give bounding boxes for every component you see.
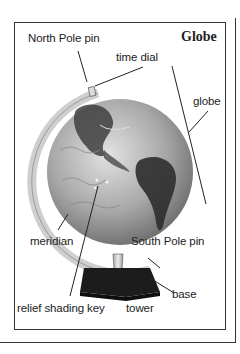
- label-globe: globe: [193, 95, 221, 107]
- label-south-pole-pin: South Pole pin: [131, 235, 204, 247]
- base: [80, 268, 160, 297]
- globe-sphere: [47, 99, 193, 245]
- north-pole-pin: [88, 87, 95, 97]
- label-time-dial: time dial: [116, 51, 158, 63]
- label-base: base: [172, 288, 197, 300]
- label-relief-shading-key: relief shading key: [17, 302, 105, 314]
- diagram-title: Globe: [181, 29, 217, 45]
- label-meridian: meridian: [30, 235, 73, 247]
- label-north-pole-pin: North Pole pin: [28, 32, 99, 44]
- label-tower: tower: [126, 302, 154, 314]
